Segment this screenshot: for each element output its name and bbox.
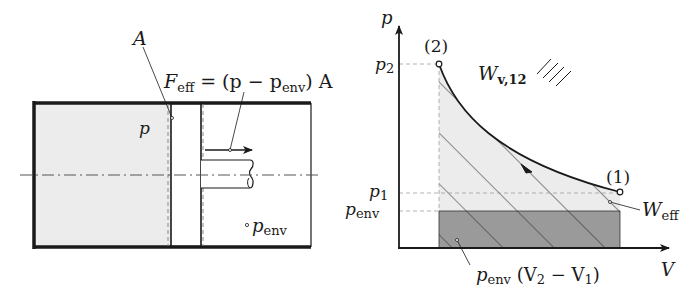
state-2-point — [436, 61, 442, 67]
tick-p1: p1 — [369, 181, 388, 203]
tick-penv: penv — [345, 199, 380, 221]
v-axis-label: V — [661, 259, 676, 280]
hatch-area — [439, 64, 620, 248]
area-label: A — [131, 27, 147, 49]
work-legend-hatch — [537, 59, 571, 86]
env-work-label: penv (V2 − V1) — [476, 264, 600, 287]
piston-rod — [201, 160, 253, 188]
state-1-label: (1) — [606, 167, 630, 187]
work-legend-label: Wv,12 — [478, 62, 527, 87]
eff-work-label: Weff — [642, 198, 680, 223]
p-axis-label: p — [381, 7, 393, 28]
force-equation: Feff = (p − penv) A — [163, 70, 333, 95]
env-point — [245, 223, 248, 226]
gas-pressure-label: p — [139, 118, 150, 138]
force-leader — [230, 92, 244, 150]
diagram-canvas: A p Feff = (p − penv) A penv — [0, 0, 699, 306]
tick-p2: p2 — [375, 54, 394, 76]
state-2-label: (2) — [424, 36, 448, 56]
state-1-point — [617, 189, 623, 195]
pv-diagram — [398, 26, 669, 265]
env-pressure-label: penv — [252, 215, 288, 238]
